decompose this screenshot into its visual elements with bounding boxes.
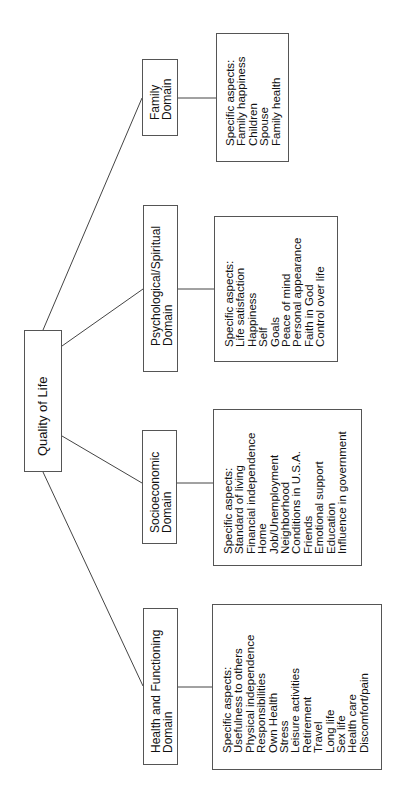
aspects-box-family: Specific aspects: Family happiness Child… (216, 33, 289, 162)
aspects-list: Specific aspects: Family happiness Child… (225, 57, 282, 146)
aspects-list: Specific aspects: Life satisfaction Happ… (224, 238, 327, 347)
domain-title: Psychological/Spiritual Domain (150, 226, 174, 346)
aspect-item: Control over life (315, 238, 326, 347)
aspect-item: Influence in government (337, 431, 348, 554)
connector-root-health (43, 472, 143, 686)
aspects-box-psychological-spiritual: Specific aspects: Life satisfaction Happ… (214, 216, 338, 362)
aspect-item: Travel (313, 635, 324, 753)
connector-root-psych (62, 289, 143, 346)
root-node-quality-of-life: Quality of Life (24, 330, 62, 472)
aspect-item: Responsibilities (256, 635, 267, 753)
aspects-list: Specific aspects: Usefulness to others P… (222, 635, 370, 753)
connector-root-socio (62, 436, 142, 483)
domain-title: Family Domain (149, 79, 173, 120)
aspect-item: Family health (271, 57, 282, 146)
aspect-item: Discomfort/pain (359, 635, 370, 753)
root-label: Quality of Life (35, 377, 50, 457)
domain-node-socioeconomic: Socioeconomic Domain (142, 430, 177, 544)
aspect-item: Self (258, 238, 269, 347)
domain-node-family: Family Domain (142, 59, 178, 136)
aspects-list: Specific aspects: Standard of living Fin… (223, 431, 348, 554)
aspect-item: Emotional support (314, 431, 325, 554)
aspect-item: Spouse (259, 57, 270, 146)
domain-node-psychological-spiritual: Psychological/Spiritual Domain (143, 205, 178, 372)
aspect-item: Home (257, 431, 268, 554)
domain-title: Socioeconomic Domain (149, 452, 173, 533)
aspects-box-health-functioning: Specific aspects: Usefulness to others P… (212, 604, 382, 770)
domain-title: Health and Functioning Domain (150, 630, 174, 753)
aspects-box-socioeconomic: Specific aspects: Standard of living Fin… (213, 409, 362, 566)
connector-root-family (43, 98, 142, 330)
domain-node-health-functioning: Health and Functioning Domain (143, 608, 178, 765)
